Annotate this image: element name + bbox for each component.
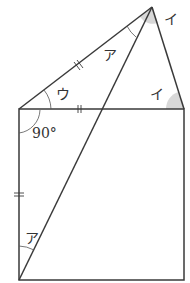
geometry-diagram: ア イ イ ウ 90° ア xyxy=(0,0,190,283)
side-AE xyxy=(19,7,152,109)
arc-angle-a-apex xyxy=(127,26,136,37)
label-right-angle: 90° xyxy=(32,125,57,141)
arc-angle-a-bottom xyxy=(19,246,34,250)
label-angle-i-apex: イ xyxy=(164,11,178,27)
label-angle-a-top: ア xyxy=(103,47,117,63)
label-angle-a-bottom: ア xyxy=(25,230,39,246)
label-angle-i-base: イ xyxy=(150,86,164,102)
label-angle-u: ウ xyxy=(56,86,70,102)
arc-angle-u xyxy=(44,90,51,109)
